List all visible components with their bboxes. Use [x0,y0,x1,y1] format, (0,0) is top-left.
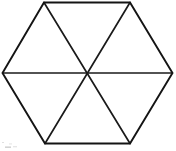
scan-speck [9,144,12,145]
hexagon-drawing [0,0,176,151]
scan-speck [5,147,11,148]
scan-speck [13,146,17,147]
hexagon-figure: Regular hexagon divided into six triangl… [0,0,176,151]
scan-speck [2,142,4,143]
